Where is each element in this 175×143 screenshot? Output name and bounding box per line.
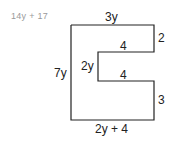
label-notch-bottom: 4	[120, 69, 127, 81]
label-top: 3y	[105, 11, 118, 23]
label-notch-top: 4	[120, 40, 127, 52]
label-bottom: 2y + 4	[95, 123, 128, 135]
label-notch-depth: 2y	[81, 60, 94, 72]
label-right-top: 2	[158, 32, 165, 44]
label-right-bottom: 3	[158, 94, 165, 106]
label-left: 7y	[54, 67, 67, 79]
